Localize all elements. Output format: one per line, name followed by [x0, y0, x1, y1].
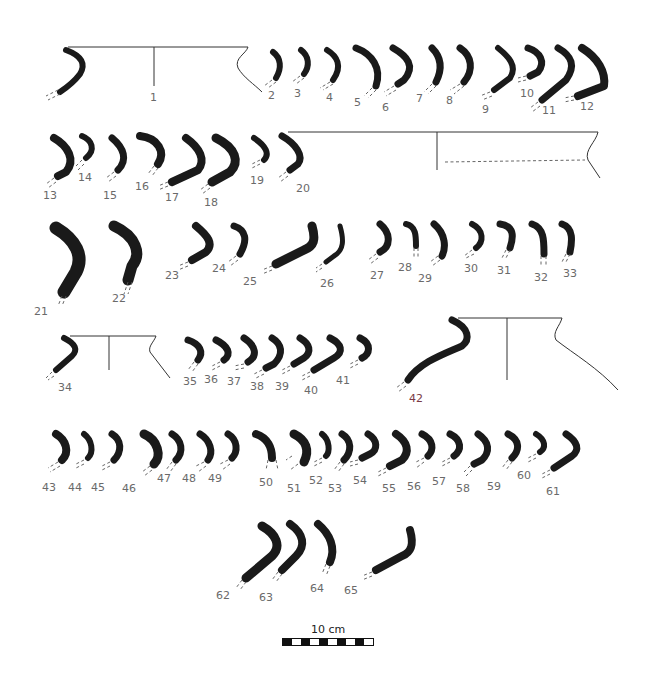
profile-label-15: 15	[103, 190, 117, 201]
profile-48	[196, 434, 211, 472]
profile-label-49: 49	[208, 473, 222, 484]
profile-label-32: 32	[534, 272, 548, 283]
profile-label-25: 25	[243, 276, 257, 287]
profile-35	[188, 340, 201, 372]
profile-label-10: 10	[520, 88, 534, 99]
profile-label-1: 1	[150, 92, 157, 103]
profile-label-52: 52	[309, 475, 323, 486]
profile-19	[252, 138, 267, 168]
profile-50	[256, 434, 278, 470]
profile-label-12: 12	[580, 101, 594, 112]
profile-label-28: 28	[398, 262, 412, 273]
profile-label-14: 14	[78, 172, 92, 183]
profile-41	[350, 338, 369, 368]
profile-label-4: 4	[326, 92, 333, 103]
profile-label-61: 61	[546, 486, 560, 497]
profile-label-53: 53	[328, 483, 342, 494]
profile-22	[114, 226, 137, 294]
profile-label-60: 60	[517, 470, 531, 481]
profile-label-8: 8	[446, 95, 453, 106]
profile-46	[142, 434, 158, 476]
profile-label-35: 35	[183, 376, 197, 387]
profile-label-18: 18	[204, 197, 218, 208]
profile-65	[362, 530, 412, 580]
profile-label-29: 29	[418, 273, 432, 284]
profile-29	[430, 224, 444, 266]
profile-label-48: 48	[182, 473, 196, 484]
profile-label-59: 59	[487, 481, 501, 492]
profile-44	[76, 434, 91, 468]
profile-label-23: 23	[165, 270, 179, 281]
profile-31	[500, 224, 512, 258]
profile-label-46: 46	[122, 483, 136, 494]
profile-32	[532, 224, 546, 266]
profile-label-13: 13	[43, 190, 57, 201]
profile-60	[528, 434, 544, 462]
profile-label-6: 6	[382, 102, 389, 113]
profile-label-21: 21	[34, 306, 48, 317]
profile-56	[416, 434, 432, 468]
profile-label-62: 62	[216, 590, 230, 601]
profile-label-3: 3	[294, 88, 301, 99]
profile-label-39: 39	[275, 381, 289, 392]
profile-label-42: 42	[409, 393, 423, 404]
profile-label-33: 33	[563, 268, 577, 279]
profile-26	[316, 226, 342, 272]
profile-label-26: 26	[320, 278, 334, 289]
profile-label-9: 9	[482, 104, 489, 115]
profile-label-20: 20	[296, 183, 310, 194]
profile-11	[530, 48, 572, 112]
profile-label-5: 5	[354, 97, 361, 108]
profile-43	[48, 434, 66, 472]
profile-33	[562, 224, 572, 262]
profile-label-65: 65	[344, 585, 358, 596]
profile-47	[166, 434, 181, 472]
profile-64	[318, 524, 332, 576]
profile-label-2: 2	[268, 90, 275, 101]
profile-label-56: 56	[407, 481, 421, 492]
profile-label-40: 40	[304, 385, 318, 396]
profile-6	[384, 48, 410, 96]
profile-17	[158, 138, 202, 190]
profile-37	[234, 338, 254, 370]
profile-label-22: 22	[112, 293, 126, 304]
profile-20	[278, 132, 600, 182]
profile-16	[140, 136, 161, 176]
profile-label-27: 27	[370, 270, 384, 281]
profile-label-47: 47	[157, 473, 171, 484]
profile-label-11: 11	[542, 105, 556, 116]
profile-10	[518, 48, 542, 82]
profile-label-7: 7	[416, 93, 423, 104]
profile-label-50: 50	[259, 477, 273, 488]
profile-label-38: 38	[250, 381, 264, 392]
profile-34	[46, 336, 170, 380]
profile-15	[106, 138, 124, 182]
profile-label-58: 58	[456, 483, 470, 494]
profile-label-43: 43	[42, 482, 56, 493]
profile-53	[334, 434, 350, 472]
profile-label-54: 54	[353, 475, 367, 486]
profile-label-41: 41	[336, 375, 350, 386]
profile-55	[378, 434, 407, 476]
profile-label-31: 31	[497, 265, 511, 276]
profile-label-37: 37	[227, 376, 241, 387]
profile-62	[236, 526, 277, 590]
profile-14	[76, 136, 92, 170]
profile-52	[314, 434, 329, 466]
profile-label-57: 57	[432, 476, 446, 487]
profile-label-36: 36	[204, 374, 218, 385]
profile-49	[220, 434, 236, 470]
profile-30	[464, 224, 482, 258]
profile-label-30: 30	[464, 263, 478, 274]
profile-61	[542, 434, 577, 478]
profile-25	[262, 226, 314, 274]
profile-51	[286, 434, 307, 470]
profile-label-51: 51	[287, 483, 301, 494]
profile-18	[200, 138, 235, 194]
profile-2	[264, 52, 280, 88]
profile-21	[56, 228, 79, 306]
profile-24	[228, 226, 245, 266]
profile-42	[396, 318, 618, 392]
profile-45	[102, 434, 120, 470]
profile-3	[292, 50, 308, 84]
